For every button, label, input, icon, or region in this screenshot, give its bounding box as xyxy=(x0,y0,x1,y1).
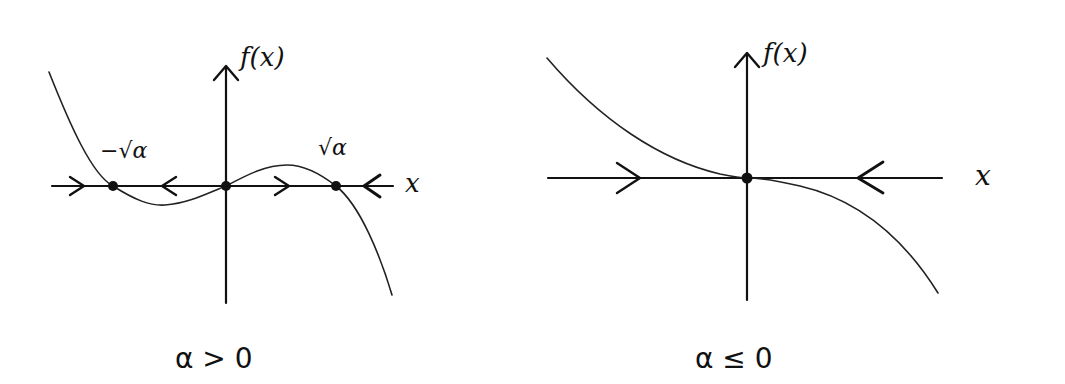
fixed-point-neg-sqrt-alpha xyxy=(108,181,118,191)
fixed-point-label-pos: √α xyxy=(318,135,347,160)
fixed-point-origin xyxy=(742,173,753,184)
x-axis-label: x xyxy=(405,168,420,198)
panel-caption: α > 0 xyxy=(175,342,253,375)
y-axis-label: f(x) xyxy=(761,38,808,68)
panel-alpha-positive: f(x) x −√α √α α > 0 xyxy=(49,42,420,375)
y-axis-label: f(x) xyxy=(238,42,285,72)
function-curve xyxy=(49,72,392,295)
panel-caption: α ≤ 0 xyxy=(695,342,773,375)
x-axis-label: x xyxy=(975,159,991,192)
diagram-canvas: f(x) x −√α √α α > 0 f(x) x α ≤ 0 xyxy=(0,0,1065,384)
fixed-point-origin xyxy=(221,181,231,191)
panel-alpha-nonpositive: f(x) x α ≤ 0 xyxy=(547,38,991,375)
fixed-point-label-neg: −√α xyxy=(100,138,147,163)
fixed-point-sqrt-alpha xyxy=(331,181,341,191)
